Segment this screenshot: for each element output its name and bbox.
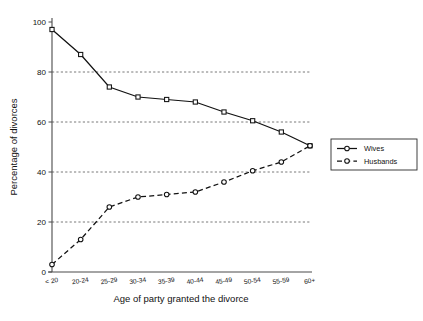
- legend-marker-sample: [345, 146, 350, 151]
- y-tick-label-80: 80: [37, 68, 46, 77]
- series-line-wives: [52, 30, 310, 146]
- y-tick-label-0: 0: [42, 268, 47, 277]
- y-tick-label-20: 20: [37, 218, 46, 227]
- data-point-marker: [193, 100, 197, 104]
- data-point-marker: [50, 262, 55, 267]
- legend-marker-sample: [345, 159, 350, 164]
- y-tick-label-100: 100: [33, 18, 47, 27]
- data-point-marker: [165, 97, 169, 101]
- legend-label: Husbands: [364, 157, 398, 166]
- data-point-marker: [222, 110, 226, 114]
- data-point-marker: [279, 160, 284, 165]
- x-category-label: 45-49: [215, 276, 233, 286]
- divorce-percentage-line-chart: 020406080100< 2020-2425-2930-3435-3940-4…: [0, 0, 423, 321]
- data-point-marker: [107, 85, 111, 89]
- y-tick-label-40: 40: [37, 168, 46, 177]
- data-point-marker: [50, 27, 54, 31]
- x-category-label: 25-29: [100, 276, 118, 286]
- x-axis-categories: < 2020-2425-2930-3435-3940-4445-4950-545…: [45, 276, 316, 286]
- series-husbands: [50, 143, 313, 266]
- chart-canvas: 020406080100< 2020-2425-2930-3435-3940-4…: [0, 0, 423, 321]
- data-point-marker: [164, 192, 169, 197]
- x-axis-title: Age of party granted the divorce: [113, 293, 248, 304]
- data-point-marker: [136, 195, 141, 200]
- y-axis-title: Percentage of divorces: [8, 98, 19, 195]
- x-category-label: 40-44: [186, 276, 204, 286]
- series-wives: [50, 27, 312, 147]
- data-point-marker: [250, 168, 255, 173]
- data-point-marker: [136, 95, 140, 99]
- x-category-label: < 20: [45, 276, 59, 285]
- data-point-marker: [79, 52, 83, 56]
- legend-label: Wives: [364, 144, 384, 153]
- axes: [48, 18, 312, 272]
- x-category-label: 50-54: [243, 276, 261, 286]
- data-point-marker: [222, 180, 227, 185]
- y-tick-label-60: 60: [37, 118, 46, 127]
- data-point-marker: [78, 237, 83, 242]
- x-category-label: 55-59: [272, 276, 290, 286]
- x-category-label: 20-24: [71, 276, 89, 286]
- series-line-husbands: [52, 146, 310, 265]
- gridlines: [52, 72, 310, 222]
- data-point-marker: [251, 119, 255, 123]
- y-axis-ticks: 020406080100: [33, 18, 52, 277]
- data-point-marker: [107, 205, 112, 210]
- data-point-marker: [279, 130, 283, 134]
- x-category-label: 35-39: [157, 276, 175, 286]
- data-point-marker: [193, 190, 198, 195]
- data-point-marker: [308, 143, 313, 148]
- x-category-label: 30-34: [129, 276, 147, 286]
- legend: WivesHusbands: [331, 139, 417, 170]
- x-category-label: 60+: [304, 276, 316, 285]
